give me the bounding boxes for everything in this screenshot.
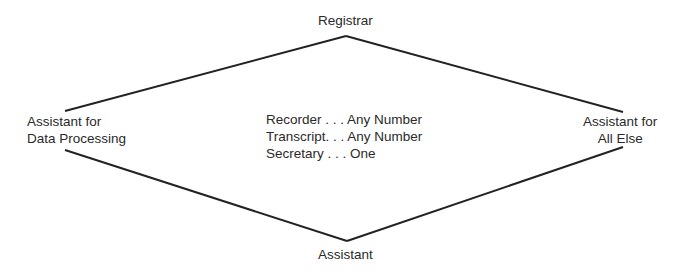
node-assistant: Assistant <box>318 246 373 263</box>
registrar-label: Registrar <box>318 13 373 28</box>
right-label-line1: Assistant for <box>583 113 657 130</box>
staff-item-transcript: Transcript. . . Any Number <box>266 128 422 145</box>
right-label-line2: All Else <box>583 130 657 147</box>
line-registrar-to-right <box>346 36 623 112</box>
node-assistant-data-processing: Assistant for Data Processing <box>27 113 126 147</box>
assistant-label: Assistant <box>318 247 373 262</box>
left-label-line1: Assistant for <box>27 113 126 130</box>
line-registrar-to-left <box>65 36 346 111</box>
node-registrar: Registrar <box>318 12 373 29</box>
staff-item-secretary: Secretary . . . One <box>266 145 422 162</box>
staff-item-recorder: Recorder . . . Any Number <box>266 111 422 128</box>
line-left-to-assistant <box>65 150 347 241</box>
left-label-line2: Data Processing <box>27 130 126 147</box>
staff-list: Recorder . . . Any Number Transcript. . … <box>266 111 422 162</box>
node-assistant-all-else: Assistant for All Else <box>583 113 657 147</box>
